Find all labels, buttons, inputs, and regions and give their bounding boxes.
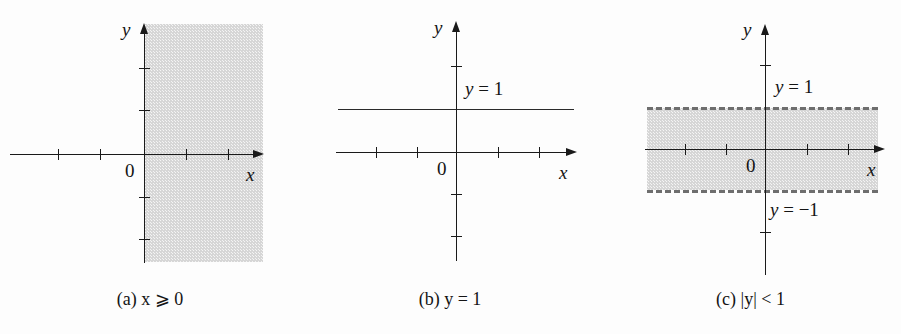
y-tick-c xyxy=(760,232,771,233)
y-tick-a xyxy=(139,68,150,69)
x-axis-label-b: x xyxy=(559,163,567,182)
x-axis-label-a: x xyxy=(246,165,254,184)
caption-b: (b) y = 1 xyxy=(300,290,600,308)
x-tick-a xyxy=(186,149,187,160)
x-axis-b xyxy=(336,152,568,153)
x-tick-b xyxy=(376,147,377,158)
y-tick-a xyxy=(139,197,150,198)
x-tick-a xyxy=(58,149,59,160)
x-axis-arrow-b xyxy=(566,148,577,156)
x-axis-c xyxy=(645,149,876,150)
annotation-y-equals-1-b: y = 1 xyxy=(465,79,503,98)
boundary-y-equals-minus-1-c xyxy=(647,190,878,193)
x-tick-a xyxy=(100,149,101,160)
y-axis-arrow-b xyxy=(452,21,460,32)
y-axis-c xyxy=(765,34,766,275)
shaded-region-a xyxy=(144,24,263,262)
y-tick-b xyxy=(451,194,462,195)
y-tick-c xyxy=(760,65,771,66)
figure-container: y x 0 (a) x ⩾ 0 y x 0 y = 1 (b) y = 1 xyxy=(0,0,901,334)
y-tick-b xyxy=(451,66,462,67)
panel-b: y x 0 y = 1 (b) y = 1 xyxy=(300,0,600,334)
x-tick-b xyxy=(417,147,418,158)
x-tick-c xyxy=(726,144,727,155)
caption-a: (a) x ⩾ 0 xyxy=(0,290,300,308)
x-axis-label-c: x xyxy=(867,160,875,179)
y-tick-a xyxy=(139,239,150,240)
y-tick-a xyxy=(139,110,150,111)
x-axis-a xyxy=(10,154,255,155)
x-tick-c xyxy=(685,144,686,155)
boundary-y-equals-1-c xyxy=(647,107,878,110)
x-axis-arrow-c xyxy=(874,145,885,153)
annotation-y-equals-minus-1-c: y = −1 xyxy=(770,200,819,219)
x-tick-c xyxy=(848,144,849,155)
caption-c: (c) |y| < 1 xyxy=(600,290,901,308)
panel-a: y x 0 (a) x ⩾ 0 xyxy=(0,0,300,334)
origin-label-b: 0 xyxy=(437,159,447,178)
x-tick-b xyxy=(498,147,499,158)
y-axis-label-c: y xyxy=(743,20,751,39)
annotation-y-equals-1-c: y = 1 xyxy=(775,77,813,96)
x-axis-arrow-a xyxy=(253,150,264,158)
y-axis-arrow-a xyxy=(140,23,148,34)
origin-label-c: 0 xyxy=(746,156,756,175)
y-axis-label-b: y xyxy=(434,18,442,37)
y-axis-arrow-c xyxy=(761,24,769,35)
origin-label-a: 0 xyxy=(125,161,135,180)
x-tick-a xyxy=(228,149,229,160)
x-tick-c xyxy=(807,144,808,155)
y-axis-label-a: y xyxy=(122,20,130,39)
x-tick-b xyxy=(539,147,540,158)
y-tick-b xyxy=(451,236,462,237)
panel-c: y x 0 y = 1 y = −1 (c) |y| < 1 xyxy=(600,0,901,334)
